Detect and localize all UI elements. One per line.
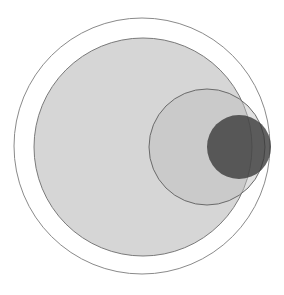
nested-circles-diagram xyxy=(0,0,284,295)
small-dark-circle xyxy=(207,115,271,179)
